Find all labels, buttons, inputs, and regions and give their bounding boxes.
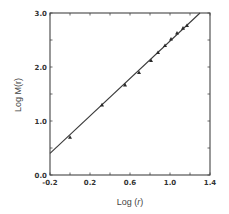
x-tick-label: 0.2 [84, 179, 97, 187]
chart: -0.20.20.61.01.40.01.02.03.0 Log (r) Log… [0, 0, 229, 214]
y-tick-label: 2.0 [35, 64, 48, 72]
x-tick-label: -0.2 [42, 179, 57, 187]
axes-box [50, 13, 210, 175]
y-tick-label: 0.0 [35, 172, 48, 180]
y-axis-label: Log M(r) [13, 78, 23, 112]
x-tick-label: 0.6 [124, 179, 137, 187]
tick-labels: -0.20.20.61.01.40.01.02.03.0 [35, 10, 217, 188]
axis-ticks [50, 13, 210, 175]
x-tick-label: 1.4 [204, 179, 217, 187]
plot-frame [50, 13, 210, 175]
x-axis-label: Log (r) [117, 197, 144, 207]
x-tick-label: 1.0 [164, 179, 177, 187]
y-tick-label: 1.0 [35, 118, 48, 126]
y-tick-label: 3.0 [35, 10, 48, 18]
